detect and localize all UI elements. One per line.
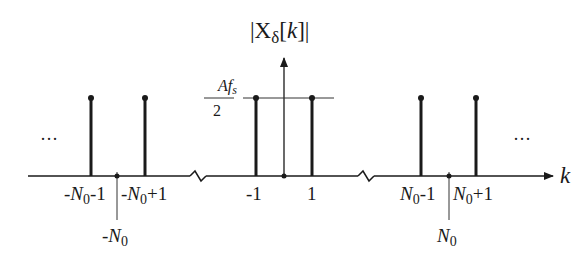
label-neg-n0: -N0 [102,225,128,249]
diagram-title: |Xδ[k]| [250,18,309,47]
label-n0-minus-1: N0-1 [399,183,436,207]
amplitude-numerator: Afs [217,77,237,97]
x-axis-label: k [560,163,571,188]
label-neg-1: -1 [246,183,262,204]
ellipsis-left: ··· [40,129,58,149]
x-axis [28,171,553,181]
spectrum-diagram: |Xδ[k]| k Afs 2 ··· [0,0,588,276]
label-n0-plus-1: N0+1 [452,183,493,207]
axis-break-right-icon [358,171,374,181]
label-pos-1: 1 [307,183,317,204]
label-neg-n0-plus-1: -N0+1 [121,183,167,207]
amplitude-denominator: 2 [213,102,221,119]
axis-break-left-icon [190,171,206,181]
label-n0: N0 [436,225,457,249]
ellipsis-right: ··· [513,129,531,149]
origin-dot [282,174,287,179]
label-neg-n0-minus-1: -N0-1 [64,183,106,207]
